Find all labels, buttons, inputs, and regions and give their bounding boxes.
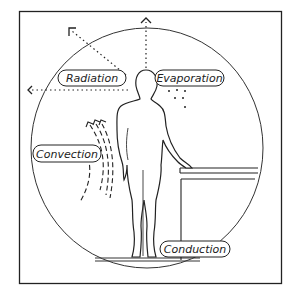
convection-label: Convection	[33, 145, 101, 162]
convection-text: Convection	[36, 148, 98, 161]
radiation-label: Radiation	[58, 70, 126, 86]
radiation-text: Radiation	[66, 72, 118, 85]
evaporation-droplets	[168, 89, 186, 108]
evaporation-text: Evaporation	[156, 72, 222, 85]
conduction-text: Conduction	[164, 243, 226, 256]
conduction-label: Conduction	[160, 241, 230, 257]
evaporation-label: Evaporation	[155, 70, 224, 86]
convection-airflow	[80, 124, 113, 202]
heat-transfer-diagram: Radiation Evaporation Convection Conduct…	[0, 0, 291, 292]
floor	[95, 258, 200, 261]
